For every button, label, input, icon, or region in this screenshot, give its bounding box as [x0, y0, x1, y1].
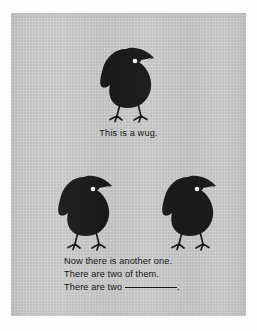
prompt-line-1: Now there is another one. — [64, 255, 180, 268]
prompt-line-3: There are two. — [64, 281, 180, 294]
wug-figure-top — [95, 45, 159, 130]
prompt-line-2: There are two of them. — [64, 268, 180, 281]
prompt-line-3-suffix: . — [177, 282, 180, 292]
wug-body-group — [100, 48, 154, 122]
prompt-line-3-prefix: There are two — [64, 282, 122, 292]
wug-eye — [195, 187, 200, 192]
wug-eye — [133, 59, 138, 64]
wug-figure-bottom-right — [157, 173, 221, 258]
wug-eye — [91, 187, 96, 192]
answer-blank[interactable] — [125, 287, 177, 288]
photo-frame: This is a wug. Now there is another one.… — [0, 0, 257, 331]
singular-caption: This is a wug. — [0, 127, 257, 139]
wug-figure-bottom-left — [53, 173, 117, 258]
wug-body-group — [58, 176, 112, 250]
wug-body-group — [162, 176, 216, 250]
plural-prompt-block: Now there is another one. There are two … — [64, 255, 180, 295]
